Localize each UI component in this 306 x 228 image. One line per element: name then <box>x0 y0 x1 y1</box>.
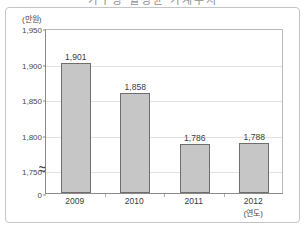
x-axis-tick-label: 2012 <box>244 196 263 206</box>
y-axis-unit-label: (만원) <box>22 13 41 24</box>
y-axis-tick-label: 1,850 <box>22 97 42 106</box>
y-axis-tick-mark <box>43 65 46 66</box>
page-title: 가구당 월평균 가계수지 <box>88 0 218 7</box>
y-axis-tick-label: 1,800 <box>22 132 42 141</box>
bar-value-label: 1,788 <box>244 132 265 142</box>
bar-2012: 1,788 <box>239 143 269 193</box>
bar-chart: (만원) 1,9501,9001,8501,8001,75001,9011,85… <box>6 8 301 224</box>
x-axis-tick-mark <box>224 194 225 197</box>
bar-2009: 1,901 <box>61 63 91 193</box>
figure-frame: (만원) 1,9501,9001,8501,8001,75001,9011,85… <box>5 7 300 223</box>
y-axis-zero-label: 0 <box>38 191 42 200</box>
plot-area: 1,9501,9001,8501,8001,75001,9011,8581,78… <box>45 29 283 194</box>
y-axis-tick-mark <box>43 30 46 31</box>
x-axis-tick-label: 2009 <box>65 196 84 206</box>
bar-value-label: 1,901 <box>65 52 86 62</box>
bar-value-label: 1,786 <box>184 133 205 143</box>
x-axis-tick-mark <box>105 194 106 197</box>
x-axis-unit-label: (연도) <box>244 207 263 218</box>
y-axis-tick-label: 1,950 <box>22 26 42 35</box>
y-axis-tick-mark <box>43 101 46 102</box>
x-axis-tick-mark <box>164 194 165 197</box>
bar-2011: 1,786 <box>180 144 210 193</box>
x-axis-tick-label: 2010 <box>125 196 144 206</box>
bar-2010: 1,858 <box>120 93 150 193</box>
bar-value-label: 1,858 <box>125 82 146 92</box>
chart-title-strip: 가구당 월평균 가계수지 <box>0 0 306 7</box>
y-axis-zero-tick-mark <box>43 195 46 196</box>
y-axis-tick-label: 1,900 <box>22 61 42 70</box>
x-axis-tick-label: 2011 <box>185 196 203 206</box>
axis-break-icon: ≈ <box>39 160 45 178</box>
y-axis-tick-mark <box>43 136 46 137</box>
